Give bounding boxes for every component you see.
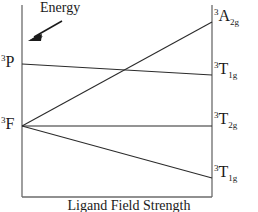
term-symbol: T [219, 110, 229, 127]
term-label-3T1g-lower: 3T1g [214, 164, 237, 183]
energy-arrow-icon [28, 21, 62, 41]
term-label-3T1g-upper: 3T1g [214, 61, 237, 80]
term-symbol: A [219, 7, 231, 24]
term-label-3P: 3P [1, 54, 14, 70]
term-label-3A2g: 3A2g [214, 8, 239, 27]
energy-axis-label: Energy [40, 0, 80, 16]
term-symbol: T [219, 60, 229, 77]
term-subscript: 1g [228, 70, 237, 80]
term-label-3F: 3F [1, 116, 14, 132]
term-subscript: 2g [228, 120, 237, 130]
term-subscript: 2g [230, 17, 239, 27]
term-symbol: P [6, 53, 15, 70]
orgel-diagram: Energy 3P 3F 3A2g 3T1g 3T2g 3T1g Ligand … [0, 0, 258, 212]
term-subscript: 1g [228, 173, 237, 183]
correlation-line-3F-to-3A2g [22, 22, 212, 126]
correlation-line-3F-to-3T1g [22, 126, 212, 178]
term-symbol: T [219, 163, 229, 180]
term-label-3T2g: 3T2g [214, 111, 237, 130]
x-axis-caption: Ligand Field Strength [0, 198, 258, 212]
correlation-line-3P-to-3T1g [22, 64, 212, 75]
term-symbol: F [6, 115, 15, 132]
